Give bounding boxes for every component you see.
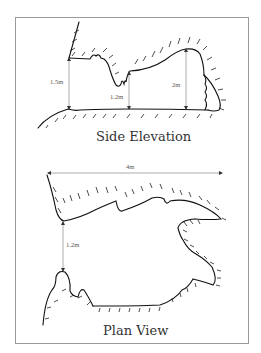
dim-entrance-width: 1.2m [66, 241, 79, 248]
dim-middle-height: 1.2m [110, 93, 123, 100]
side-elevation-title: Side Elevation [96, 129, 191, 144]
cave-diagram: 1.5m 1.2m 2m 4m 1.2m [0, 0, 261, 353]
side-elevation-dimensions [67, 48, 188, 110]
plan-view-width-dimension [47, 171, 223, 175]
plan-view-hatching [45, 183, 226, 319]
dim-plan-width: 4m [126, 163, 134, 170]
plan-view-title: Plan View [103, 323, 168, 338]
dim-left-height: 1.5m [50, 78, 63, 85]
plan-view-drawing [43, 175, 221, 325]
dim-right-height: 2m [172, 81, 180, 88]
plan-view-entrance-dimension [61, 221, 65, 272]
